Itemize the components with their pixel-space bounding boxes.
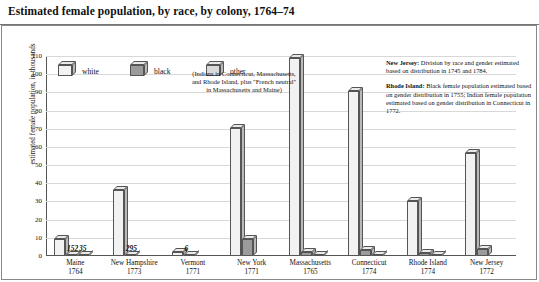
x-tick-colony: Vermont (164, 259, 223, 268)
x-tick-colony: Massachusetts (281, 259, 340, 268)
bar-white (54, 239, 65, 256)
x-tick-year: 1771 (164, 268, 223, 277)
y-tick-label: 60 (20, 143, 42, 151)
chart-note: New Jersey: Division by race and gender … (386, 59, 534, 75)
y-tick-label: 110 (20, 52, 42, 60)
page-title: Estimated female population, by race, by… (8, 5, 295, 17)
bar-white (230, 128, 241, 256)
bar-white (113, 190, 124, 256)
bar-other (431, 255, 442, 256)
bar-face (407, 201, 418, 256)
x-tick-year: 1774 (399, 268, 458, 277)
legend-swatch-white (58, 65, 72, 76)
bar-black (301, 252, 312, 256)
x-tick-label: Vermont1771 (164, 259, 223, 277)
y-tick-label: 0 (20, 252, 42, 260)
x-tick-label: New Jersey1772 (457, 259, 516, 277)
bar-other (78, 255, 89, 256)
y-tick-label: 40 (20, 179, 42, 187)
legend-swatch-face (130, 65, 144, 76)
bar-face (172, 252, 183, 256)
chart-note-heading: New Jersey: (386, 59, 419, 66)
x-tick-label: Maine1764 (46, 259, 105, 277)
legend-swatch-black (130, 65, 144, 76)
y-tick-label: 20 (20, 216, 42, 224)
bar-value-label: 6 (185, 244, 189, 253)
bar-black (184, 255, 195, 256)
x-tick-year: 1772 (457, 268, 516, 277)
y-tick-label: 10 (20, 234, 42, 242)
x-tick-label: New Hampshire1773 (105, 259, 164, 277)
x-tick-colony: New Hampshire (105, 259, 164, 268)
x-axis-labels: Maine1764New Hampshire1773Vermont1771New… (46, 259, 516, 281)
bar-black (242, 239, 253, 256)
x-tick-label: Connecticut1774 (340, 259, 399, 277)
y-tick-label: 80 (20, 107, 42, 115)
bar-other (372, 255, 383, 256)
chart-notes: New Jersey: Division by race and gender … (386, 59, 534, 122)
legend-other-note: (Indians in Connecticut, Massachusetts, … (190, 70, 298, 94)
x-tick-year: 1771 (222, 268, 281, 277)
bar-face (419, 253, 430, 256)
x-tick-colony: New York (222, 259, 281, 268)
x-tick-year: 1774 (340, 268, 399, 277)
chart-frame: estimated female population, in thousand… (1, 25, 537, 280)
chart-note: Rhode Island: Black female population es… (386, 82, 534, 115)
y-tick-label: 50 (20, 161, 42, 169)
bar-black (419, 253, 430, 256)
x-tick-label: Massachusetts1765 (281, 259, 340, 277)
x-tick-label: Rhode Island1774 (399, 259, 458, 277)
bar-face (360, 250, 371, 256)
chart-page: Estimated female population, by race, by… (0, 0, 539, 282)
x-tick-colony: New Jersey (457, 259, 516, 268)
bar-face (113, 190, 124, 256)
bar-face (54, 239, 65, 256)
x-tick-year: 1764 (46, 268, 105, 277)
bar-face (348, 91, 359, 256)
bar-face (477, 249, 488, 256)
legend-label-white: white (82, 67, 99, 76)
bar-white (465, 153, 476, 256)
bar-face (301, 252, 312, 256)
bar-white (348, 91, 359, 256)
chart-note-heading: Rhode Island: (386, 82, 425, 89)
x-tick-year: 1765 (281, 268, 340, 277)
bar-black (66, 255, 77, 256)
y-tick-label: 70 (20, 125, 42, 133)
bar-other (313, 255, 324, 256)
bar-black (125, 255, 136, 256)
y-axis-ticks: 0102030405060708090100110 (20, 56, 42, 256)
x-tick-colony: Rhode Island (399, 259, 458, 268)
y-tick-label: 90 (20, 88, 42, 96)
bar-face (242, 239, 253, 256)
bar-white (172, 252, 183, 256)
legend-label-black: black (154, 67, 170, 76)
bar-value-label: 295 (126, 244, 137, 253)
bar-value-label: 35 (79, 244, 87, 253)
x-tick-year: 1773 (105, 268, 164, 277)
y-tick-label: 30 (20, 197, 42, 205)
bar-black (477, 249, 488, 256)
bar-side (359, 87, 363, 256)
x-tick-colony: Connecticut (340, 259, 399, 268)
bar-face (465, 153, 476, 256)
x-tick-colony: Maine (46, 259, 105, 268)
bar-side (418, 197, 422, 256)
bar-side (300, 54, 304, 256)
bar-side (476, 149, 480, 256)
bar-face (230, 128, 241, 256)
y-axis-line (46, 56, 47, 256)
bar-black (360, 250, 371, 256)
bar-value-label: 152 (67, 244, 78, 253)
legend-swatch-face (58, 65, 72, 76)
bar-white (407, 201, 418, 256)
x-tick-label: New York1771 (222, 259, 281, 277)
y-tick-label: 100 (20, 70, 42, 78)
